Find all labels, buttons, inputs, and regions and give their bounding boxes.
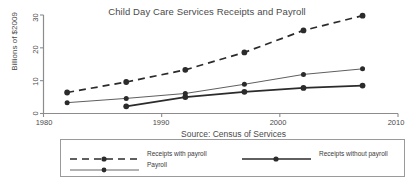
legend-entry-receipts-with-payroll: Receipts with payroll <box>69 154 141 165</box>
source-note: Source: Census of Services <box>61 129 406 139</box>
chart-figure: Child Day Care Services Receipts and Pay… <box>0 0 414 182</box>
data-point <box>301 28 307 34</box>
data-point <box>124 96 129 101</box>
data-point <box>360 66 365 71</box>
series-2 <box>65 66 365 105</box>
data-point <box>241 50 247 56</box>
legend-swatch-solid-thin <box>69 165 141 175</box>
legend-label-1: Receipts without payroll <box>319 150 388 157</box>
legend-entry-payroll: Payroll <box>69 165 141 176</box>
data-point <box>301 72 306 77</box>
legend-swatch-dashed <box>69 154 141 164</box>
legend-label-2: Payroll <box>147 161 167 168</box>
data-point <box>241 89 247 95</box>
legend-swatch-solid-thick <box>241 154 313 164</box>
data-point <box>64 90 70 96</box>
data-point <box>123 103 129 109</box>
data-point <box>65 100 70 105</box>
data-point <box>182 67 188 73</box>
data-point <box>123 79 129 85</box>
data-point <box>360 13 366 19</box>
data-point <box>242 82 247 87</box>
series-0 <box>64 13 365 96</box>
data-point <box>183 91 188 96</box>
data-point <box>301 85 307 91</box>
legend-entry-receipts-without-payroll: Receipts without payroll <box>241 154 313 165</box>
series-lines <box>64 13 365 109</box>
legend: Source: Census of Services Receipts with… <box>60 139 405 177</box>
axes <box>40 15 398 117</box>
data-point <box>360 83 366 89</box>
legend-label-0: Receipts with payroll <box>147 150 207 157</box>
